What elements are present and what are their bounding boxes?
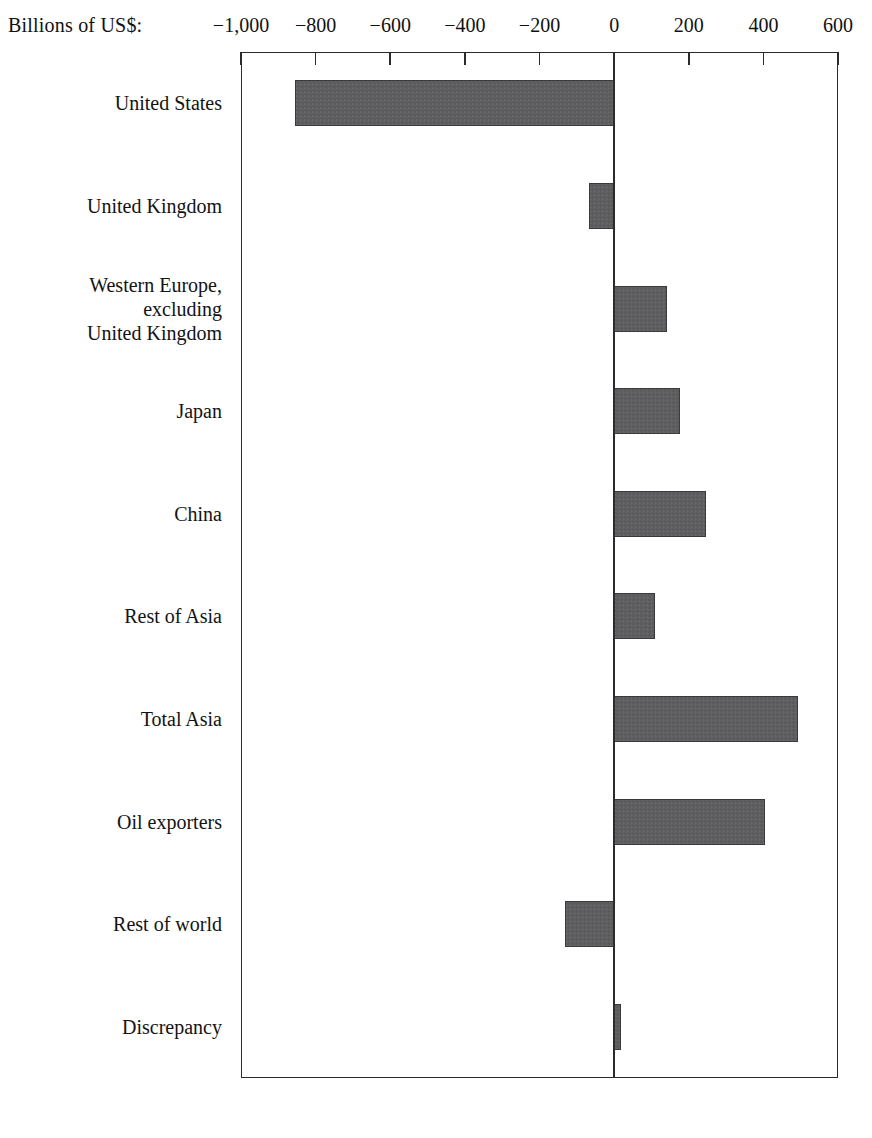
category-label-1: United Kingdom bbox=[0, 194, 222, 218]
category-label-2: Western Europe, excluding United Kingdom bbox=[0, 273, 222, 345]
category-label-5: Rest of Asia bbox=[0, 604, 222, 628]
bar-6 bbox=[614, 696, 798, 742]
bar-7 bbox=[614, 799, 765, 845]
x-tick-mark-7 bbox=[763, 52, 765, 65]
bar-chart: Billions of US$: −1,000−800−600−400−2000… bbox=[0, 0, 872, 1138]
x-tick-mark-2 bbox=[389, 52, 391, 65]
x-tick-mark-0 bbox=[240, 52, 242, 65]
bar-0 bbox=[295, 80, 614, 126]
axis-unit-label: Billions of US$: bbox=[8, 14, 218, 37]
x-tick-label-3: −400 bbox=[444, 14, 485, 37]
category-label-9: Discrepancy bbox=[0, 1015, 222, 1039]
category-label-6: Total Asia bbox=[0, 707, 222, 731]
x-tick-label-5: 0 bbox=[609, 14, 619, 37]
bar-4 bbox=[614, 491, 706, 537]
x-tick-label-1: −800 bbox=[295, 14, 336, 37]
x-tick-label-6: 200 bbox=[674, 14, 704, 37]
bar-2 bbox=[614, 286, 667, 332]
x-tick-label-8: 600 bbox=[823, 14, 853, 37]
x-tick-mark-6 bbox=[688, 52, 690, 65]
zero-axis-line bbox=[613, 52, 615, 1078]
x-tick-label-2: −600 bbox=[370, 14, 411, 37]
category-label-8: Rest of world bbox=[0, 912, 222, 936]
category-label-3: Japan bbox=[0, 399, 222, 423]
x-tick-label-7: 400 bbox=[748, 14, 778, 37]
category-label-0: United States bbox=[0, 91, 222, 115]
bar-1 bbox=[589, 183, 614, 229]
plot-area bbox=[241, 52, 838, 1078]
x-tick-mark-1 bbox=[315, 52, 317, 65]
x-tick-mark-8 bbox=[837, 52, 839, 65]
bar-3 bbox=[614, 388, 680, 434]
x-tick-label-4: −200 bbox=[519, 14, 560, 37]
x-tick-mark-3 bbox=[464, 52, 466, 65]
bar-5 bbox=[614, 593, 655, 639]
x-tick-mark-4 bbox=[539, 52, 541, 65]
bar-8 bbox=[565, 901, 614, 947]
category-label-4: China bbox=[0, 502, 222, 526]
category-label-7: Oil exporters bbox=[0, 810, 222, 834]
x-tick-label-0: −1,000 bbox=[213, 14, 269, 37]
